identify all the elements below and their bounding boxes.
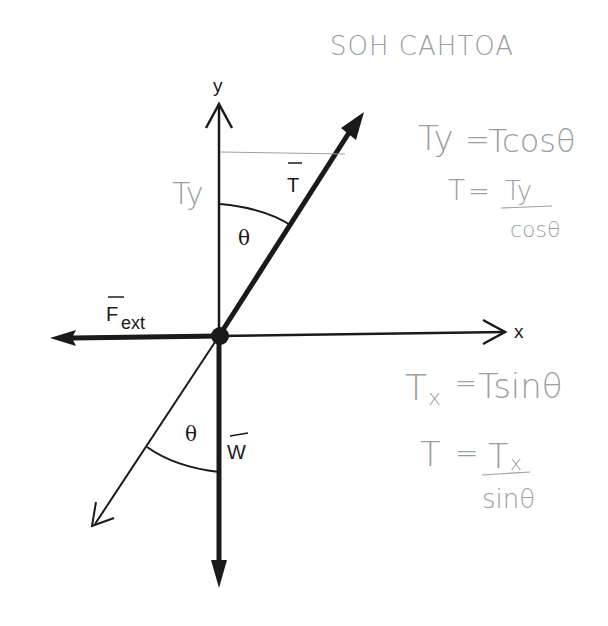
weight-label: W	[227, 441, 246, 463]
tension-vector: T	[219, 112, 364, 336]
svg-text:T: T	[405, 367, 427, 408]
svg-text:T: T	[448, 174, 465, 207]
svg-text:x: x	[428, 385, 441, 410]
fext-label: F	[106, 303, 118, 325]
upper-theta-label: θ	[238, 226, 250, 250]
ty-projection-line	[221, 152, 345, 154]
equation-t-from-ty: T = Ty cosθ	[448, 174, 560, 242]
svg-text:cosθ: cosθ	[510, 217, 560, 242]
lower-theta-label: θ	[185, 422, 197, 446]
equation-ty: Ty = Tcosθ	[418, 118, 576, 160]
external-force-vector: F ext	[50, 297, 219, 346]
svg-text:=: =	[455, 368, 477, 398]
equation-tx: T x = Tsinθ	[405, 366, 563, 410]
weight-vector: W	[211, 336, 248, 588]
weight-arrowhead-icon	[211, 560, 227, 588]
svg-text:T: T	[420, 434, 441, 474]
svg-text:T: T	[488, 436, 509, 476]
upper-angle-arc	[220, 204, 292, 226]
tension-extension-line	[92, 336, 219, 526]
origin-point	[211, 327, 229, 345]
lower-angle-arc	[147, 447, 219, 472]
svg-text:Ty: Ty	[418, 118, 454, 158]
y-axis-label: y	[213, 75, 223, 96]
soh-cah-toa-note: SOH CAHTOA	[330, 31, 514, 61]
svg-text:x: x	[510, 451, 522, 475]
fext-subscript: ext	[121, 313, 145, 333]
svg-text:Tsinθ: Tsinθ	[478, 366, 563, 406]
tension-label: T	[287, 174, 299, 196]
svg-text:=: =	[465, 122, 490, 157]
ty-component-label: Ty	[172, 176, 203, 211]
svg-text:=: =	[455, 436, 478, 469]
svg-text:sinθ: sinθ	[482, 484, 535, 514]
svg-text:Ty: Ty	[505, 176, 532, 206]
x-axis-label: x	[514, 321, 524, 342]
equation-t-from-tx: T = T x sinθ	[420, 434, 535, 514]
svg-text:=: =	[468, 176, 490, 206]
svg-text:Tcosθ: Tcosθ	[488, 122, 576, 160]
free-body-diagram: y x W F ext T θ θ Ty SOH C	[0, 0, 608, 626]
x-axis: x	[219, 320, 524, 344]
